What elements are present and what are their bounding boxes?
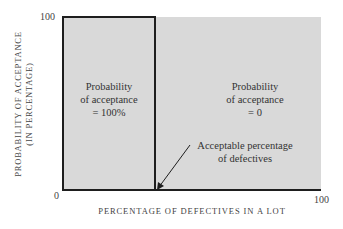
- annotation-arrow-icon: [0, 0, 343, 229]
- oc-curve-chart: 100 0 100 PROBABILITY OF ACCEPTANCE (IN …: [0, 0, 343, 229]
